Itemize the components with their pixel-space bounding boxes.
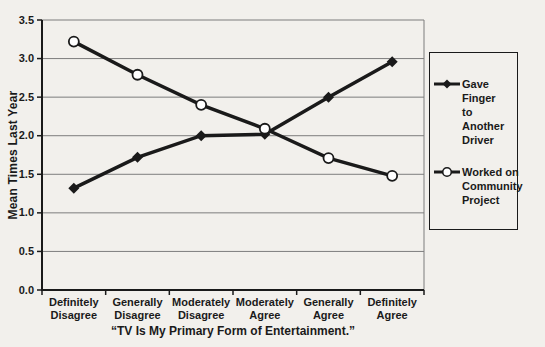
x-category-label: Moderately Disagree [167,296,235,322]
legend-entry: Worked on Community Project [433,165,523,207]
filled-diamond-marker [196,130,207,141]
legend-marker-filled-diamond [433,77,461,91]
open-circle-marker [260,124,270,134]
y-tick-label: 1.5 [0,168,34,181]
legend-label: Gave Finger to Another Driver [462,77,517,147]
x-category-label: Moderately Agree [231,296,299,322]
y-axis-title: Mean Times Last Year [6,91,20,220]
series-line-1 [74,42,392,176]
legend-label: Worked on Community Project [462,165,523,207]
filled-diamond-marker [132,152,143,163]
filled-diamond-marker [68,183,79,194]
legend: Gave Finger to Another DriverWorked on C… [429,52,518,230]
y-tick-label: 2.0 [0,129,34,142]
y-tick-label: 2.5 [0,91,34,104]
legend-entry: Gave Finger to Another Driver [433,77,517,147]
x-category-label: Generally Agree [295,296,363,322]
open-circle-marker [324,153,334,163]
series-line-0 [74,62,392,189]
chart-figure: Mean Times Last Year 0.00.51.01.52.02.53… [0,0,545,347]
legend-marker-open-circle [433,165,461,179]
open-circle-marker [196,100,206,110]
y-tick-label: 1.0 [0,206,34,219]
x-category-label: Definitely Agree [358,296,426,322]
y-tick-label: 0.5 [0,245,34,258]
open-circle-marker [387,171,397,181]
y-tick-label: 3.5 [0,14,34,27]
x-category-label: Generally Disagree [104,296,172,322]
y-tick-label: 0.0 [0,284,34,297]
open-circle-marker [133,70,143,80]
x-category-label: Definitely Disagree [40,296,108,322]
x-axis-title: “TV Is My Primary Form of Entertainment.… [42,324,424,338]
y-tick-label: 3.0 [0,52,34,65]
open-circle-marker [69,37,79,47]
